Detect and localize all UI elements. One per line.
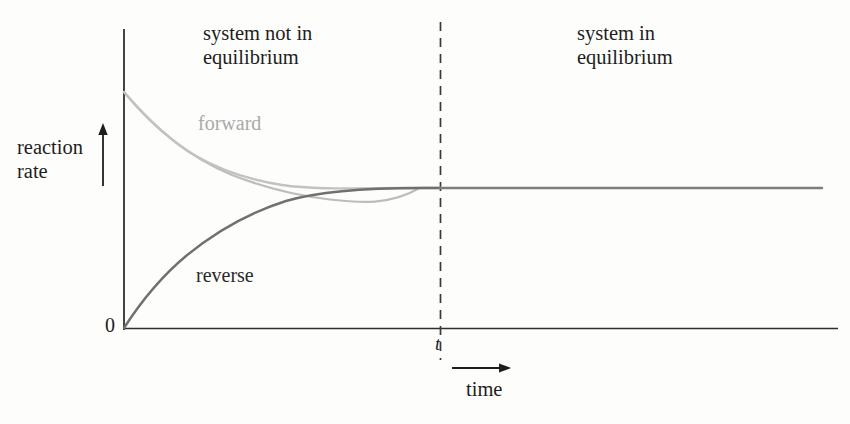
x-axis-title: time <box>466 377 502 401</box>
region-label-in-equilibrium: system in equilibrium <box>577 21 673 69</box>
region-label-not-in-equilibrium: system not in equilibrium <box>203 21 312 69</box>
reverse-curve <box>124 188 440 328</box>
reverse-curve-label: reverse <box>196 264 254 288</box>
y-axis-title: reaction rate <box>17 135 83 183</box>
forward-curve-label: forward <box>198 112 261 136</box>
forward-curve-smooth <box>124 92 440 188</box>
up-arrow-icon <box>98 123 107 186</box>
time-tick-label: t <box>435 333 440 355</box>
chart-canvas <box>0 0 850 424</box>
right-arrow-icon <box>452 363 511 372</box>
equilibrium-reaction-rate-figure: system not in equilibrium system in equi… <box>0 0 850 424</box>
origin-tick-label: 0 <box>105 314 115 338</box>
